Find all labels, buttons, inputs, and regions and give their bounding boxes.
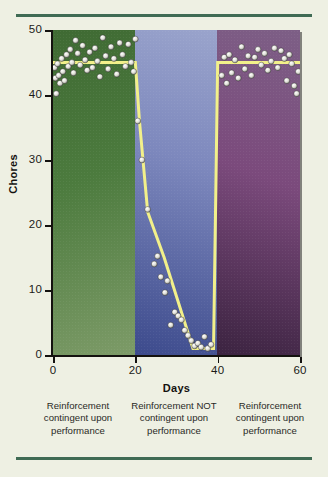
- data-point: [69, 60, 75, 66]
- plot-area: [53, 30, 300, 355]
- data-point: [185, 333, 191, 339]
- phase-caption-1: Reinforcement contingent upon performanc…: [30, 400, 126, 437]
- data-point: [145, 207, 151, 213]
- data-point: [92, 45, 98, 51]
- data-point: [123, 64, 129, 70]
- data-point: [59, 56, 65, 62]
- x-axis-title: Days: [53, 382, 300, 394]
- data-point: [224, 80, 230, 86]
- data-point: [120, 52, 126, 58]
- y-tick-10: [45, 290, 52, 292]
- data-point: [208, 342, 214, 348]
- data-point: [289, 61, 295, 67]
- x-axis-line: [51, 355, 300, 357]
- data-point: [278, 48, 284, 54]
- data-point: [82, 57, 88, 63]
- data-point: [165, 278, 171, 284]
- data-point: [229, 70, 235, 76]
- data-point: [60, 69, 66, 75]
- x-tick-60: [300, 357, 302, 363]
- data-point: [272, 45, 278, 51]
- chart-figure: 01020304050 0204060 Chores Days Reinforc…: [0, 18, 328, 458]
- y-axis-line: [51, 30, 53, 355]
- data-point: [226, 52, 232, 58]
- data-point: [71, 70, 77, 76]
- data-point: [239, 44, 245, 50]
- data-point: [158, 274, 164, 280]
- data-point: [131, 69, 137, 75]
- data-point: [235, 75, 241, 81]
- data-point: [268, 58, 274, 64]
- phase-captions: Reinforcement contingent upon performanc…: [30, 400, 318, 437]
- data-point: [219, 73, 225, 79]
- data-point: [249, 73, 255, 79]
- data-point: [84, 67, 90, 73]
- data-point: [245, 53, 251, 59]
- data-point: [108, 44, 114, 50]
- y-tick-label-20: 20: [2, 218, 42, 230]
- y-tick-30: [45, 160, 52, 162]
- data-layer: [53, 30, 300, 355]
- x-tick-label-20: 20: [115, 364, 155, 376]
- data-point: [73, 38, 79, 44]
- data-point: [291, 83, 297, 89]
- y-tick-0: [45, 355, 52, 357]
- data-point: [188, 338, 194, 344]
- data-point: [162, 290, 168, 296]
- data-point: [179, 317, 185, 323]
- data-point: [286, 52, 292, 58]
- data-point: [242, 66, 248, 72]
- data-point: [135, 118, 141, 124]
- data-point: [125, 41, 131, 47]
- data-point: [114, 71, 120, 77]
- data-point: [95, 58, 101, 64]
- data-point: [258, 62, 264, 68]
- y-tick-label-0: 0: [2, 348, 42, 360]
- phase-caption-3: Reinforcement contingent upon performanc…: [222, 400, 318, 437]
- y-tick-20: [45, 225, 52, 227]
- data-point: [67, 47, 73, 53]
- data-point: [255, 47, 261, 53]
- data-point: [198, 344, 204, 350]
- figure-page: 01020304050 0204060 Chores Days Reinforc…: [0, 0, 328, 477]
- data-point: [182, 327, 188, 333]
- x-tick-40: [218, 357, 220, 363]
- data-point: [100, 35, 106, 41]
- data-point: [139, 157, 145, 163]
- data-point: [281, 56, 287, 62]
- data-point: [80, 43, 86, 49]
- data-point: [77, 62, 83, 68]
- data-point: [62, 78, 68, 84]
- data-point: [64, 52, 70, 58]
- y-tick-label-10: 10: [2, 283, 42, 295]
- data-point: [97, 74, 103, 80]
- data-point: [275, 65, 281, 71]
- data-point: [117, 40, 123, 46]
- y-tick-40: [45, 95, 52, 97]
- y-axis-title: Chores: [7, 139, 19, 209]
- data-point: [252, 54, 258, 60]
- data-point: [294, 91, 300, 97]
- data-point: [75, 51, 81, 57]
- data-point: [265, 67, 271, 73]
- data-point: [90, 65, 96, 71]
- data-point: [168, 322, 174, 328]
- top-rule: [16, 14, 312, 17]
- x-tick-20: [135, 357, 137, 363]
- data-point: [128, 60, 134, 66]
- data-point: [132, 36, 138, 42]
- x-tick-0: [53, 357, 55, 363]
- data-point: [284, 78, 290, 84]
- data-point: [295, 69, 300, 75]
- data-point: [202, 334, 208, 340]
- phase-caption-2: Reinforcement NOT contingent upon perfor…: [126, 400, 222, 437]
- x-tick-label-60: 60: [280, 364, 320, 376]
- data-point: [105, 66, 111, 72]
- data-point: [111, 56, 117, 62]
- data-point: [53, 91, 59, 97]
- data-point: [232, 57, 238, 63]
- data-point: [103, 53, 109, 59]
- data-point: [262, 51, 268, 57]
- data-point: [55, 61, 61, 67]
- data-point: [151, 261, 157, 267]
